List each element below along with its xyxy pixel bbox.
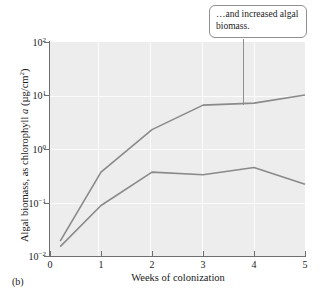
y-axis-tick-label: 102 [33, 36, 47, 48]
panel-label: (b) [12, 276, 24, 287]
y-tick-base: 10 [33, 90, 43, 101]
y-axis-tick-label: 101 [33, 89, 47, 101]
gridline-horizontal [50, 203, 305, 204]
gridline-horizontal [50, 149, 305, 150]
y-tick-base: 10 [33, 37, 43, 48]
figure-panel: 102 101 100 10−1 10−2 0 1 2 3 4 5 Algal … [0, 0, 322, 297]
x-axis-tick [203, 251, 204, 257]
x-axis-tick-label: 3 [201, 259, 206, 270]
y-axis-title-tail: ) [19, 69, 30, 73]
x-axis-tick-label: 5 [303, 259, 308, 270]
callout-leader-line [243, 39, 244, 105]
x-axis-tick-label: 2 [150, 259, 155, 270]
x-axis-tick-label: 0 [48, 259, 53, 270]
x-axis-tick [101, 251, 102, 257]
plot-area [50, 42, 305, 256]
callout-box: …and increased algal biomass. [209, 5, 307, 38]
gridline-horizontal [50, 96, 305, 97]
x-axis-tick-label: 4 [252, 259, 257, 270]
x-axis-title: Weeks of colonization [50, 272, 306, 283]
x-axis-tick [305, 251, 306, 257]
y-axis-title: Algal biomass, as chlorophyll a (µg/cm2) [18, 45, 31, 265]
y-axis-tick-label: 10−1 [29, 197, 46, 209]
y-axis-tick-label: 100 [33, 143, 47, 155]
x-axis-tick [152, 251, 153, 257]
x-axis-tick [50, 251, 51, 257]
x-axis-tick-label: 1 [99, 259, 104, 270]
y-tick-exponent: −2 [39, 250, 46, 258]
y-axis-title-superscript: 2 [18, 72, 26, 76]
y-axis-title-prefix: Algal biomass, as chlorophyll [19, 114, 30, 242]
y-tick-exponent: 2 [43, 36, 47, 44]
y-axis-title-suffix: (µg/cm [19, 76, 30, 109]
y-tick-exponent: 1 [43, 89, 47, 97]
y-tick-exponent: 0 [43, 143, 47, 151]
y-tick-base: 10 [33, 144, 43, 155]
y-tick-exponent: −1 [39, 197, 46, 205]
x-axis-line [49, 256, 306, 257]
x-axis-tick [254, 251, 255, 257]
y-axis-title-italic: a [19, 109, 30, 114]
y-axis-tick-label: 10−2 [29, 250, 46, 262]
